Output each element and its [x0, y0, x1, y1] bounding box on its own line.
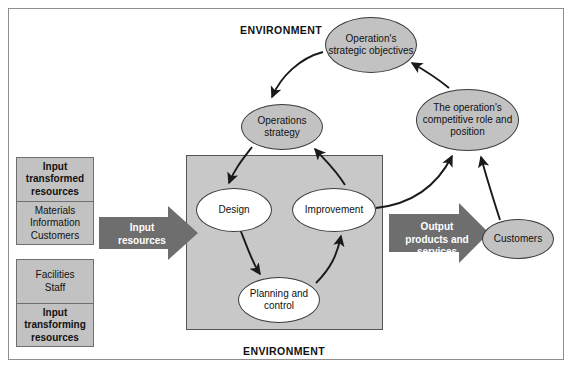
item-staff: Staff — [45, 282, 65, 295]
node-improvement[interactable]: Improvement — [292, 188, 376, 232]
environment-label-top: ENVIRONMENT — [240, 24, 322, 36]
input-transformed-resources-items: Materials Information Customers — [17, 202, 93, 245]
item-materials: Materials — [35, 205, 76, 218]
environment-label-bottom: ENVIRONMENT — [243, 345, 325, 357]
input-transformed-resources-group: Input transformed resources Materials In… — [16, 157, 94, 245]
node-competitive-role[interactable]: The operation's competitive role and pos… — [416, 89, 519, 151]
item-customers: Customers — [31, 230, 79, 243]
item-facilities: Facilities — [36, 269, 75, 282]
input-transforming-resources-group: Facilities Staff Input transforming reso… — [16, 259, 94, 347]
node-customers[interactable]: Customers — [482, 219, 554, 259]
input-transformed-resources-heading: Input transformed resources — [17, 158, 93, 201]
node-strategic-objectives[interactable]: Operation's strategic objectives — [325, 17, 417, 73]
input-transforming-resources-heading: Input transforming resources — [17, 304, 93, 347]
node-planning-and-control[interactable]: Planning and control — [238, 277, 320, 323]
node-design[interactable]: Design — [196, 188, 272, 232]
item-information: Information — [30, 217, 80, 230]
input-transforming-resources-items: Facilities Staff — [17, 260, 93, 303]
node-operations-strategy[interactable]: Operations strategy — [241, 104, 323, 150]
operations-strategy-diagram: ENVIRONMENT ENVIRONMENT Input transforme… — [0, 0, 572, 369]
